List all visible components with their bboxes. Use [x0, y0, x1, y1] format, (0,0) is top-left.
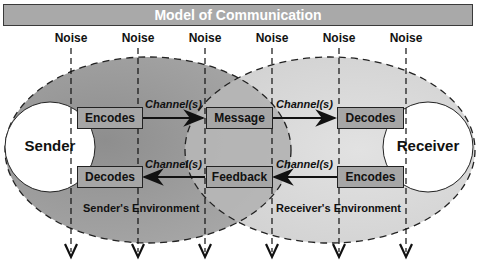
receiver-environment-label: Receiver's Environment — [276, 202, 401, 214]
receiver-encodes-box: Encodes — [337, 166, 404, 188]
noise-label-5: Noise — [314, 31, 364, 45]
message-box: Message — [206, 107, 273, 129]
noise-label-3: Noise — [180, 31, 230, 45]
noise-label-6: Noise — [381, 31, 431, 45]
channel-label-bottom-right: Channel(s) — [276, 158, 333, 170]
sender-environment-label: Sender's Environment — [83, 202, 199, 214]
noise-label-2: Noise — [113, 31, 163, 45]
noise-label-4: Noise — [247, 31, 297, 45]
sender-label: Sender — [10, 137, 90, 154]
receiver-decodes-box: Decodes — [337, 107, 404, 129]
channel-label-top-left: Channel(s) — [145, 98, 202, 110]
channel-label-bottom-left: Channel(s) — [145, 158, 202, 170]
noise-arrowheads — [65, 244, 412, 257]
noise-label-1: Noise — [46, 31, 96, 45]
channel-label-top-right: Channel(s) — [276, 98, 333, 110]
sender-decodes-box: Decodes — [77, 166, 143, 188]
feedback-box: Feedback — [206, 166, 273, 188]
sender-encodes-box: Encodes — [77, 107, 143, 129]
receiver-label: Receiver — [388, 137, 468, 154]
